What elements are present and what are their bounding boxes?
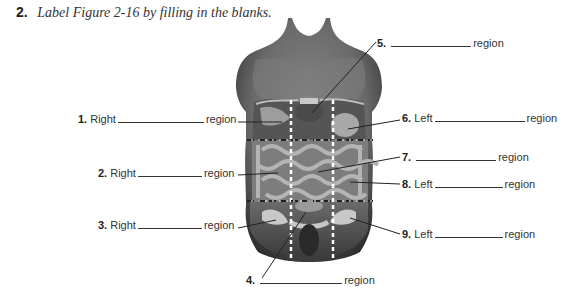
label-2: 2. Right region — [98, 167, 234, 179]
label-1: 1. Right region — [78, 113, 236, 125]
label-7: 7. region — [402, 151, 529, 163]
blank-8[interactable] — [435, 186, 503, 188]
label-4: 4. region — [246, 274, 375, 286]
label-8: 8. Left region — [402, 178, 535, 190]
blank-9[interactable] — [435, 236, 503, 238]
blank-3[interactable] — [138, 227, 202, 229]
blank-4[interactable] — [260, 282, 342, 284]
label-5: 5. region — [377, 37, 504, 49]
label-9: 9. Left region — [402, 228, 535, 240]
blank-2[interactable] — [138, 175, 202, 177]
blank-6[interactable] — [435, 120, 525, 122]
label-6: 6. Left region — [402, 112, 557, 124]
label-3: 3. Right region — [98, 219, 234, 231]
blank-1[interactable] — [118, 121, 204, 123]
blank-7[interactable] — [416, 159, 496, 161]
blank-5[interactable] — [391, 45, 471, 47]
